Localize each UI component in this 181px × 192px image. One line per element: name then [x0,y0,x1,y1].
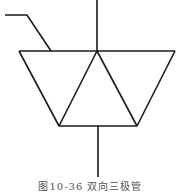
triac-symbol [0,0,181,192]
left-side [19,51,59,126]
figure-caption: 图10-36 双向三极管 [0,178,181,192]
center-left-diagonal [59,51,97,126]
gate-lead [5,15,51,51]
right-side [137,51,175,126]
center-right-diagonal [97,51,137,126]
